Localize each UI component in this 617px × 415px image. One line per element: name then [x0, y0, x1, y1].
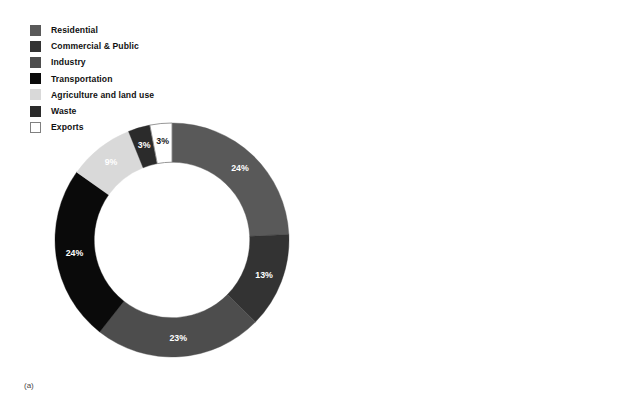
donut-slice-value-label: 9% — [105, 157, 118, 167]
legend-item-label: Agriculture and land use — [51, 90, 154, 100]
legend-item[interactable]: Commercial & Public — [30, 38, 154, 54]
legend-item[interactable]: Residential — [30, 22, 154, 38]
legend-swatch-icon — [30, 41, 41, 52]
legend-swatch-icon — [30, 57, 41, 68]
legend-item[interactable]: Industry — [30, 54, 154, 70]
legend-panel-a: ResidentialCommercial & PublicIndustryTr… — [30, 22, 154, 135]
donut-slice-value-label: 24% — [66, 248, 84, 258]
legend-item[interactable]: Waste — [30, 103, 154, 119]
donut-slice[interactable]: 23% — [100, 295, 256, 357]
donut-slice-value-label: 13% — [255, 270, 273, 280]
donut-svg: 24%13%23%24%9%3%3% — [54, 122, 290, 358]
legend-swatch-icon — [30, 25, 41, 36]
donut-chart-a: 24%13%23%24%9%3%3% — [54, 122, 290, 358]
chart-panel-b: ResidentialCommercial & PublicEnergy sup… — [308, 0, 617, 415]
legend-item[interactable]: Transportation — [30, 71, 154, 87]
legend-swatch-icon — [30, 106, 41, 117]
donut-slice[interactable]: 24% — [172, 123, 289, 236]
donut-slice[interactable]: 24% — [55, 172, 124, 332]
donut-slice-wedge — [172, 123, 289, 236]
donut-slice-value-label: 3% — [156, 136, 169, 146]
legend-swatch-icon — [30, 73, 41, 84]
legend-item[interactable]: Agriculture and land use — [30, 87, 154, 103]
chart-panel-a: ResidentialCommercial & PublicIndustryTr… — [0, 0, 308, 415]
legend-item-label: Transportation — [51, 74, 113, 84]
legend-swatch-icon — [30, 122, 41, 133]
donut-slice-wedge — [100, 295, 256, 357]
legend-swatch-icon — [30, 89, 41, 100]
legend-item-label: Industry — [51, 57, 86, 67]
legend-item-label: Waste — [51, 106, 77, 116]
donut-slice-value-label: 24% — [231, 163, 249, 173]
donut-slice-value-label: 3% — [138, 140, 151, 150]
legend-item-label: Commercial & Public — [51, 41, 139, 51]
legend-item-label: Residential — [51, 25, 98, 35]
panel-caption-a: (a) — [24, 381, 34, 390]
donut-slice-value-label: 23% — [169, 333, 187, 343]
